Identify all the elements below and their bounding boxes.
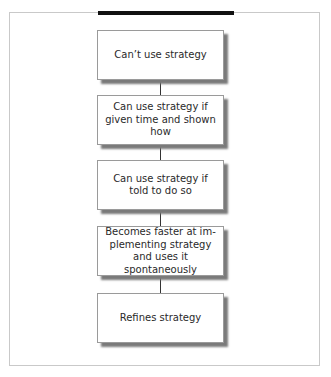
step-box-3: Can use strategy if told to do so <box>97 160 224 210</box>
connector-1-2 <box>160 80 161 95</box>
step-box-2: Can use strategy if given time and shown… <box>97 95 224 145</box>
connector-3-4 <box>160 210 161 226</box>
step-label: Refines strategy <box>120 312 202 325</box>
step-box-4: Becomes faster at im-plementing strategy… <box>97 226 224 276</box>
step-box-5: Refines strategy <box>97 293 224 343</box>
step-box-1: Can’t use strategy <box>97 30 224 80</box>
step-label: Can use strategy if given time and shown… <box>104 101 217 139</box>
step-label: Becomes faster at im-plementing strategy… <box>104 226 217 276</box>
connector-2-3 <box>160 145 161 160</box>
step-label: Can’t use strategy <box>114 49 206 62</box>
header-bar <box>98 11 234 15</box>
connector-4-5 <box>160 276 161 293</box>
step-label: Can use strategy if told to do so <box>104 173 217 198</box>
